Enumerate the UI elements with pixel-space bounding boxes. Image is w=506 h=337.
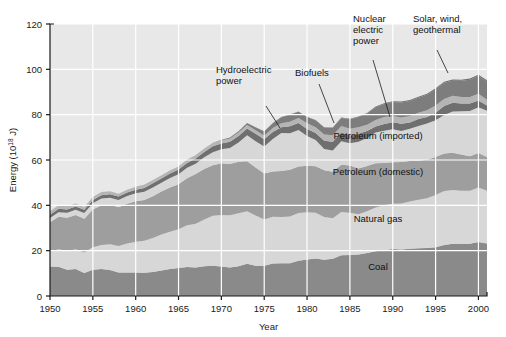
figure-container: 0204060801001201950195519601965197019751… (0, 0, 506, 337)
y-axis-tick-label: 20 (31, 245, 42, 256)
x-axis-title: Year (259, 321, 278, 332)
y-axis-tick-label: 60 (31, 155, 42, 166)
x-axis-tick-label: 1975 (254, 303, 275, 314)
y-axis-title-tail: J) (7, 128, 18, 139)
x-axis-tick-label: 2000 (468, 303, 489, 314)
x-axis-tick-label: 1990 (382, 303, 403, 314)
callout-label-line: power (353, 35, 379, 46)
y-axis-title: Energy (1018 J) (7, 128, 19, 192)
callout-label-line: Solar, wind, (413, 13, 462, 24)
x-axis-tick-label: 1985 (339, 303, 360, 314)
x-axis-tick-label: 1955 (82, 303, 103, 314)
energy-stacked-area-chart: 0204060801001201950195519601965197019751… (0, 0, 506, 337)
callout-label-line: Biofuels (295, 67, 329, 78)
callout-label-line: Nuclear (353, 13, 386, 24)
series-inline-label: Petroleum (imported) (333, 130, 422, 141)
y-axis-tick-label: 40 (31, 200, 42, 211)
y-axis-tick-label: 80 (31, 109, 42, 120)
x-axis-tick-label: 1995 (425, 303, 446, 314)
x-axis-tick-label: 1960 (125, 303, 146, 314)
y-axis-title-base: Energy (10 (7, 146, 18, 192)
y-axis-tick-label: 120 (26, 19, 42, 30)
x-axis-tick-label: 1980 (296, 303, 317, 314)
callout-label: Solar, wind,geothermal (413, 13, 462, 35)
callout-label-line: geothermal (413, 24, 461, 35)
callout-label-line: electric (353, 24, 383, 35)
y-axis-tick-label: 0 (37, 291, 42, 302)
x-axis-tick-label: 1950 (39, 303, 60, 314)
callout-label: Biofuels (295, 67, 329, 78)
x-axis-tick-label: 1965 (168, 303, 189, 314)
callout-label-line: Hydroelectric (216, 64, 272, 75)
series-inline-label: Petroleum (domestic) (333, 166, 423, 177)
series-inline-label: Natural gas (354, 213, 403, 224)
y-axis-tick-label: 100 (26, 64, 42, 75)
series-inline-label: Coal (368, 261, 388, 272)
x-axis-tick-label: 1970 (211, 303, 232, 314)
callout-label-line: power (216, 75, 242, 86)
